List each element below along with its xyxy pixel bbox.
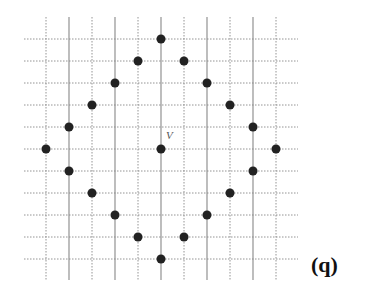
grid-point [180,233,189,242]
grid-point [249,167,258,176]
grid-point [203,211,212,220]
grid-point [226,101,235,110]
grid-point [65,167,74,176]
grid-point [88,189,97,198]
grid-point [134,233,143,242]
grid-point [111,211,120,220]
grid-point [157,35,166,44]
grid-point [203,79,212,88]
grid-point [249,123,258,132]
grid-point [134,57,143,66]
grid-point [272,145,281,154]
center-point [157,145,166,154]
grid-point [65,123,74,132]
figure-label: (q) [311,252,338,278]
grid-point [42,145,51,154]
center-point-label: V [166,129,173,141]
grid-point [157,255,166,264]
grid-point [180,57,189,66]
grid-point [111,79,120,88]
grid-point [226,189,235,198]
diamond-grid-figure [0,0,370,290]
grid-point [88,101,97,110]
